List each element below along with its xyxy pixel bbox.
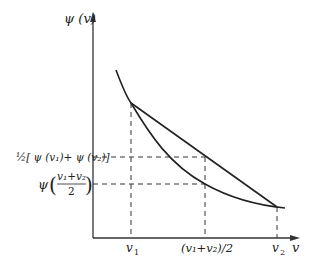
svg-text:v: v <box>272 241 279 255</box>
svg-text:v₁+v₂: v₁+v₂ <box>57 170 86 182</box>
x-axis-label: v <box>292 240 300 255</box>
svg-text:v: v <box>126 241 133 255</box>
left-paren: ( <box>49 173 57 197</box>
y-label-chord-mean: ½[ ψ (v₁)+ ψ (v₂)] <box>16 151 111 163</box>
svg-text:2: 2 <box>68 185 75 197</box>
right-paren: ) <box>85 173 93 197</box>
chord-line <box>131 103 277 207</box>
tick-v2: v 2 <box>272 241 285 257</box>
tick-mid: (v₁+v₂)/2 <box>181 241 233 255</box>
tick-v1: v 1 <box>126 241 139 257</box>
convex-curve <box>116 70 285 208</box>
svg-text:ψ: ψ <box>38 177 49 192</box>
y-label-psi-of-mean: ψ ( v₁+v₂ 2 ) <box>38 170 93 197</box>
y-axis-label: ψ (v) <box>64 11 96 26</box>
svg-text:2: 2 <box>280 248 285 257</box>
convexity-diagram: ψ (v) v v 1 (v₁+v₂)/2 v 2 ½[ ψ (v₁)+ ψ (… <box>0 0 310 263</box>
svg-text:1: 1 <box>134 248 139 257</box>
